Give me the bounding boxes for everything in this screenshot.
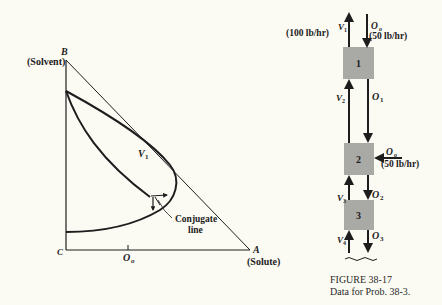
conjugate-label-2: line [188, 225, 203, 235]
vertex-c-label: C [57, 247, 64, 257]
v4-sub: 4 [343, 240, 346, 246]
cascade-diagram: 1 2 3 (100 lb/hr) V 1 O o (50 lb/hr) V 2… [286, 14, 419, 261]
figure-caption-title: FIGURE 38-17 [330, 274, 392, 285]
o0-side-sub: o [394, 152, 397, 158]
v2-sub: 2 [342, 98, 345, 104]
v1-sub: 1 [344, 27, 347, 33]
o1-label: O [372, 91, 379, 102]
stage-3-number: 3 [356, 210, 361, 221]
inner-curve [66, 91, 150, 197]
o0-tick-label: O [123, 252, 130, 263]
vertex-a-label: A [252, 244, 260, 255]
o0-tick-sub: o [131, 257, 135, 265]
arrow-right [151, 195, 167, 196]
arrow-diag [155, 197, 160, 205]
v3-sub: 3 [343, 198, 346, 204]
phase-diagram: B (Solvent) C A (Solute) V 1 O o Conjuga… [27, 46, 280, 268]
o0-side-label: O [386, 147, 393, 157]
o2-sub: 2 [380, 194, 384, 202]
o3-label: O [372, 230, 379, 241]
o1-sub: 1 [380, 96, 384, 104]
o0-top-label: O [371, 21, 378, 31]
v1-rate: (100 lb/hr) [286, 28, 329, 39]
solute-label: (Solute) [247, 256, 280, 268]
o0-top-rate: (50 lb/hr) [369, 31, 407, 42]
figure-canvas: B (Solvent) C A (Solute) V 1 O o Conjuga… [0, 0, 442, 305]
o3-sub: 3 [380, 235, 384, 243]
stage-2-number: 2 [356, 154, 361, 165]
conjugate-label-1: Conjugate [175, 214, 217, 224]
o2-label: O [372, 189, 379, 200]
o0-side-rate: (50 lb/hr) [381, 159, 419, 170]
hypotenuse-ba [66, 60, 250, 250]
stage-1-number: 1 [356, 58, 361, 69]
continuation-wave [345, 258, 377, 261]
solvent-label: (Solvent) [27, 56, 65, 68]
v1-curve-sub: 1 [145, 153, 149, 161]
binodal-curve [66, 91, 176, 232]
figure-caption-text: Data for Prob. 38-3. [330, 286, 410, 297]
